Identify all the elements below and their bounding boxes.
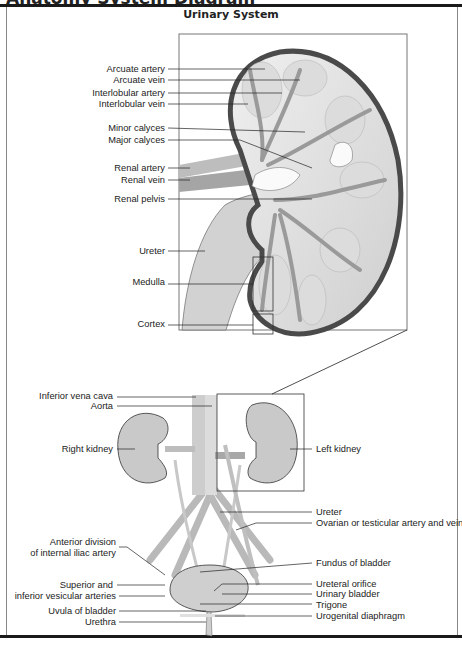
zoom-connector: [272, 330, 407, 394]
label-gonadal: Ovarian or testicular artery and vein: [316, 518, 462, 528]
label-anterior-division-1: Anterior division: [50, 537, 116, 547]
label-arcuate-vein: Arcuate vein: [113, 75, 165, 85]
label-fundus: Fundus of bladder: [316, 558, 391, 568]
label-uvula: Uvula of bladder: [48, 606, 116, 616]
urinary-bladder-shape: [170, 565, 248, 612]
label-arcuate-artery: Arcuate artery: [107, 64, 166, 74]
label-urinary-bladder: Urinary bladder: [316, 589, 380, 599]
label-medulla: Medulla: [132, 277, 165, 287]
urogenital-diaphragm-shape: [180, 614, 245, 617]
label-urogenital-diaphragm: Urogenital diaphragm: [316, 611, 405, 621]
left-renal-vessel: [215, 452, 245, 459]
label-urethra: Urethra: [85, 617, 117, 627]
label-interlobular-vein: Interlobular vein: [99, 99, 165, 109]
aorta-shape: [205, 395, 217, 495]
label-inferior-vena-cava: Inferior vena cava: [39, 391, 114, 401]
label-aorta: Aorta: [91, 401, 114, 411]
label-vesicular-2: inferior vesicular arteries: [15, 591, 117, 601]
label-right-kidney: Right kidney: [62, 444, 114, 454]
label-minor-calyces: Minor calyces: [108, 123, 165, 133]
label-interlobular-artery: Interlobular artery: [92, 88, 165, 98]
overview-view: [118, 394, 304, 636]
label-ureter: Ureter: [316, 507, 342, 517]
label-ureteral-orifice: Ureteral orifice: [316, 579, 376, 589]
label-renal-vein: Renal vein: [121, 175, 165, 185]
label-renal-artery: Renal artery: [114, 163, 165, 173]
right-kidney-shape: [118, 413, 168, 483]
label-ureter-detail: Ureter: [139, 246, 165, 256]
detail-view: [179, 34, 407, 334]
label-anterior-division-2: of internal iliac artery: [30, 548, 116, 558]
right-renal-vessel: [165, 446, 195, 452]
inferior-vena-cava-shape: [192, 395, 206, 495]
label-renal-pelvis: Renal pelvis: [114, 194, 165, 204]
urinary-system-diagram: Arcuate artery Arcuate vein Interlobular…: [0, 0, 462, 648]
label-left-kidney: Left kidney: [316, 444, 361, 454]
label-cortex: Cortex: [138, 319, 166, 329]
left-kidney-shape: [246, 403, 297, 483]
label-trigone: Trigone: [316, 600, 347, 610]
label-vesicular-1: Superior and: [60, 580, 113, 590]
label-major-calyces: Major calyces: [108, 135, 165, 145]
